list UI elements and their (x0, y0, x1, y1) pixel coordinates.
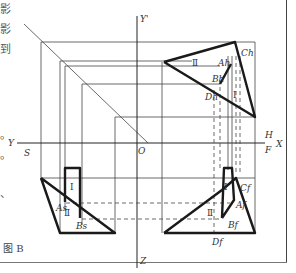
label-c-h: Ch (241, 48, 254, 58)
label-a-h: Ah (217, 58, 230, 68)
region-1-top: Ⅰ (233, 90, 237, 100)
axis-label-s: S (24, 148, 30, 158)
region-2-top: Ⅱ (192, 58, 198, 68)
region-1-side: Ⅰ (70, 182, 74, 192)
region-1-front: Ⅰ (224, 182, 228, 192)
construction-lines (24, 24, 255, 233)
axis-label-h: H (264, 130, 273, 140)
axis-label-o: O (138, 146, 146, 156)
label-b-f: Bf (227, 220, 240, 230)
label-c-f: Cf (240, 183, 252, 193)
region-2-front: Ⅱ (207, 208, 213, 218)
label-d-f: Df (211, 237, 224, 247)
axis-label-z: Z (139, 256, 147, 266)
label-a-f: Af (235, 200, 247, 210)
axis-label-f: F (264, 145, 272, 155)
axis-label-y-prime: Y' (140, 14, 148, 24)
axis-label-x: X (275, 139, 283, 149)
label-b-s: Bs (75, 221, 88, 231)
region-2-side: Ⅱ (64, 208, 70, 218)
projection-diagram: Y' Y S O H F X Z Ch Ah Bh Dh Ⅱ Ⅰ Cf Af B… (0, 0, 296, 273)
label-d-h: Dh (204, 92, 218, 102)
axis-label-y: Y (8, 138, 15, 148)
label-b-h: Bh (211, 74, 224, 84)
diagram-frame: 影 影 到 。 。 、 图 B (0, 0, 296, 273)
